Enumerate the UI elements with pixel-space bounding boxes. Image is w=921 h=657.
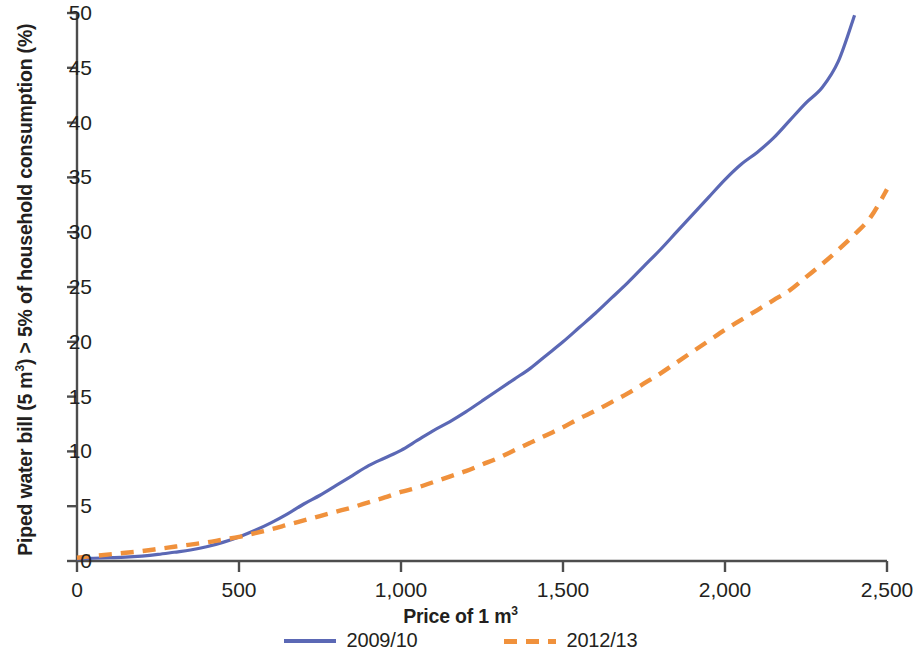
legend-label-2012-13: 2012/13 bbox=[567, 629, 638, 652]
x-tick-label: 1,000 bbox=[341, 579, 461, 600]
y-tick-label: 0 bbox=[22, 550, 92, 571]
x-axis-title-main: Price of 1 m bbox=[403, 605, 511, 627]
x-tick-label: 2,500 bbox=[827, 579, 921, 600]
y-tick-label: 15 bbox=[22, 386, 92, 407]
y-tick-label: 35 bbox=[22, 166, 92, 187]
y-tick-label: 5 bbox=[22, 495, 92, 516]
y-tick-label: 40 bbox=[22, 112, 92, 133]
y-tick-label: 25 bbox=[22, 276, 92, 297]
y-tick-label: 30 bbox=[22, 221, 92, 242]
chart-legend: 2009/10 2012/13 bbox=[0, 629, 921, 652]
x-tick-label: 2,000 bbox=[665, 579, 785, 600]
plot-area bbox=[0, 0, 921, 657]
x-tick-label: 0 bbox=[17, 579, 137, 600]
x-tick-label: 1,500 bbox=[503, 579, 623, 600]
y-tick-label: 10 bbox=[22, 440, 92, 461]
legend-label-2009-10: 2009/10 bbox=[347, 629, 418, 652]
series-line-2012-13 bbox=[77, 189, 887, 557]
series-line-2009-10 bbox=[77, 15, 855, 559]
y-tick-label: 50 bbox=[22, 2, 92, 23]
legend-item-2009-10: 2009/10 bbox=[284, 629, 418, 652]
y-tick-label: 20 bbox=[22, 331, 92, 352]
legend-item-2012-13: 2012/13 bbox=[504, 629, 638, 652]
y-tick-label: 45 bbox=[22, 57, 92, 78]
x-axis-title: Price of 1 m3 bbox=[0, 604, 921, 628]
x-tick-label: 500 bbox=[179, 579, 299, 600]
x-axis-title-superscript: 3 bbox=[511, 604, 518, 618]
chart-figure: Piped water bill (5 m3) > 5% of househol… bbox=[0, 0, 921, 657]
